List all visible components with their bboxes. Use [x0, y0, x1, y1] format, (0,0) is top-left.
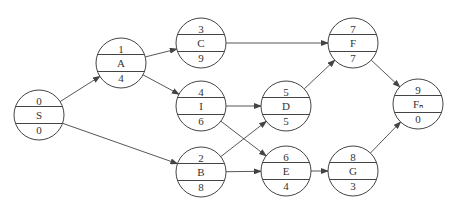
node-top-text: 6 — [283, 151, 289, 163]
edge-a-to-i — [143, 75, 179, 94]
node-top-text: 2 — [198, 152, 204, 164]
node-bottom-text: 0 — [36, 124, 42, 136]
node-label-text: Fₙ — [413, 98, 423, 110]
node-bottom-text: 9 — [198, 52, 204, 64]
node-label-text: E — [283, 165, 290, 177]
nodes-layer: 0S01A43C94I62B85D56E47F78G39Fₙ0 — [14, 18, 443, 197]
node-bottom-text: 5 — [283, 115, 289, 127]
node-label-text: D — [282, 100, 290, 112]
node-i: 4I6 — [176, 81, 226, 131]
node-b: 2B8 — [176, 147, 226, 197]
node-bottom-text: 7 — [350, 52, 356, 64]
node-top-text: 4 — [198, 86, 204, 98]
node-top-text: 1 — [118, 43, 124, 55]
node-f: 7F7 — [328, 18, 378, 68]
node-label-text: I — [199, 100, 203, 112]
edge-f-to-fn — [371, 60, 400, 87]
node-label-text: A — [117, 57, 125, 69]
node-c: 3C9 — [176, 18, 226, 68]
edge-g-to-fn — [370, 122, 400, 153]
node-bottom-text: 4 — [283, 180, 289, 192]
node-e: 6E4 — [261, 146, 311, 196]
node-label-text: C — [197, 37, 204, 49]
edge-a-to-c — [145, 49, 176, 57]
node-label-text: F — [350, 37, 356, 49]
node-bottom-text: 8 — [198, 181, 204, 193]
node-bottom-text: 0 — [415, 113, 421, 125]
edge-s-to-a — [60, 76, 100, 101]
node-label-text: S — [36, 109, 42, 121]
node-label-text: B — [197, 166, 204, 178]
node-top-text: 0 — [36, 95, 42, 107]
node-bottom-text: 3 — [350, 180, 356, 192]
node-s: 0S0 — [14, 90, 64, 140]
edge-d-to-f — [304, 60, 335, 89]
node-label-text: G — [349, 165, 357, 177]
node-top-text: 3 — [198, 23, 204, 35]
node-top-text: 7 — [350, 23, 356, 35]
node-g: 8G3 — [328, 146, 378, 196]
edge-s-to-b — [63, 123, 178, 163]
node-top-text: 8 — [350, 151, 356, 163]
node-a: 1A4 — [96, 38, 146, 88]
node-top-text: 9 — [415, 84, 421, 96]
node-fn: 9Fₙ0 — [393, 79, 443, 129]
diagram-svg: 0S01A43C94I62B85D56E47F78G39Fₙ0 — [0, 0, 462, 212]
network-diagram: 0S01A43C94I62B85D56E47F78G39Fₙ0 — [0, 0, 462, 212]
node-d: 5D5 — [261, 81, 311, 131]
node-bottom-text: 6 — [198, 115, 204, 127]
node-top-text: 5 — [283, 86, 289, 98]
node-bottom-text: 4 — [118, 72, 124, 84]
